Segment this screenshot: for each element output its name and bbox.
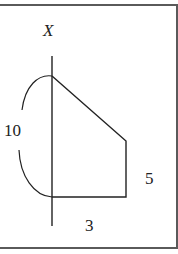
- axis-label: X: [43, 22, 53, 39]
- bottom-side-label: 3: [85, 217, 94, 234]
- arc-length-label: 10: [4, 122, 21, 139]
- right-side-label: 5: [145, 170, 154, 187]
- arc-upper: [22, 76, 52, 110]
- arc-lower: [19, 150, 52, 197]
- trapezoid-shape: [52, 76, 126, 197]
